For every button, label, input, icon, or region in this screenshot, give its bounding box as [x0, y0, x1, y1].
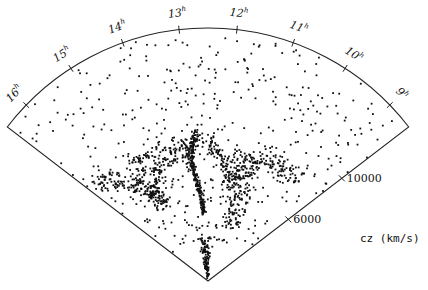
galaxy-point [152, 193, 154, 195]
galaxy-point [139, 174, 141, 176]
galaxy-point [250, 156, 252, 158]
galaxy-point [275, 156, 277, 158]
galaxy-point [186, 44, 188, 46]
galaxy-point [232, 204, 234, 206]
galaxy-point [251, 168, 253, 170]
galaxy-point [157, 164, 159, 166]
galaxy-point [207, 153, 209, 155]
galaxy-point [155, 179, 157, 181]
galaxy-point [163, 208, 165, 210]
galaxy-point [290, 144, 292, 146]
galaxy-point [235, 176, 237, 178]
velocity-tick-label: 10000 [347, 172, 382, 185]
galaxy-point [237, 178, 239, 180]
galaxy-point [150, 193, 152, 195]
galaxy-point [204, 240, 206, 242]
galaxy-point [144, 191, 146, 193]
galaxy-point [169, 161, 171, 163]
ra-tick-label: 12h [229, 5, 249, 21]
galaxy-point [257, 163, 259, 165]
galaxy-point [275, 154, 277, 156]
galaxy-point [231, 176, 233, 178]
galaxy-point [182, 238, 184, 240]
galaxy-point [79, 72, 81, 74]
galaxy-point [225, 68, 227, 70]
galaxy-point [246, 72, 248, 74]
galaxy-point [289, 94, 291, 96]
galaxy-point [199, 134, 201, 136]
galaxy-point [139, 155, 141, 157]
galaxy-point [157, 202, 159, 204]
galaxy-point [230, 228, 232, 230]
galaxy-point [194, 168, 196, 170]
galaxy-point [216, 227, 218, 229]
galaxy-point [234, 162, 236, 164]
galaxy-point [262, 153, 264, 155]
galaxy-point [279, 170, 281, 172]
galaxy-point [221, 129, 223, 131]
galaxy-point [187, 88, 189, 90]
galaxy-point [239, 199, 241, 201]
galaxy-point [136, 179, 138, 181]
galaxy-point [128, 187, 130, 189]
galaxy-point [271, 146, 273, 148]
galaxy-point [182, 148, 184, 150]
galaxy-point [180, 106, 182, 108]
galaxy-point [20, 132, 22, 134]
galaxy-point [107, 190, 109, 192]
galaxy-point [267, 195, 269, 197]
galaxy-point [207, 267, 209, 269]
galaxy-point [204, 251, 206, 253]
galaxy-point [154, 167, 156, 169]
galaxy-point [205, 254, 207, 256]
galaxy-point [153, 201, 155, 203]
galaxy-point [105, 187, 107, 189]
galaxy-point [154, 163, 156, 165]
galaxy-point [148, 99, 150, 101]
galaxy-point [305, 152, 307, 154]
galaxy-point [130, 47, 132, 49]
ra-tick-label: 11h [288, 17, 310, 36]
galaxy-point [118, 185, 120, 187]
galaxy-point [118, 174, 120, 176]
galaxy-point [295, 131, 297, 133]
galaxy-point [234, 152, 236, 154]
galaxy-point [239, 179, 241, 181]
galaxy-point [202, 206, 204, 208]
galaxy-point [162, 161, 164, 163]
galaxy-point [193, 171, 195, 173]
galaxy-point [266, 163, 268, 165]
galaxy-point [282, 163, 284, 165]
galaxy-point [122, 155, 124, 157]
galaxy-point [303, 173, 305, 175]
galaxy-point [212, 152, 214, 154]
galaxy-point [218, 238, 220, 240]
galaxy-point [282, 182, 284, 184]
galaxy-point [196, 138, 198, 140]
galaxy-point [291, 94, 293, 96]
redshift-wedge-plot: 16h15h14h13h12h11h10h9h 600010000 cz (km… [0, 0, 428, 290]
galaxy-point [167, 98, 169, 100]
galaxy-point [223, 162, 225, 164]
velocity-tick-label: 6000 [293, 213, 321, 226]
galaxy-point [306, 168, 308, 170]
galaxy-point [242, 161, 244, 163]
galaxy-point [163, 119, 165, 121]
galaxy-point [192, 158, 194, 160]
galaxy-point [367, 108, 369, 110]
galaxy-point [165, 159, 167, 161]
galaxy-point [107, 188, 109, 190]
galaxy-point [95, 147, 97, 149]
galaxy-point [148, 200, 150, 202]
galaxy-point [195, 185, 197, 187]
galaxy-point [150, 187, 152, 189]
galaxy-point [214, 69, 216, 71]
galaxy-point [366, 157, 368, 159]
galaxy-point [253, 162, 255, 164]
galaxy-point [174, 160, 176, 162]
galaxy-point [299, 109, 301, 111]
galaxy-point [249, 160, 251, 162]
galaxy-point [241, 169, 243, 171]
galaxy-point [286, 200, 288, 202]
galaxy-point [123, 125, 125, 127]
